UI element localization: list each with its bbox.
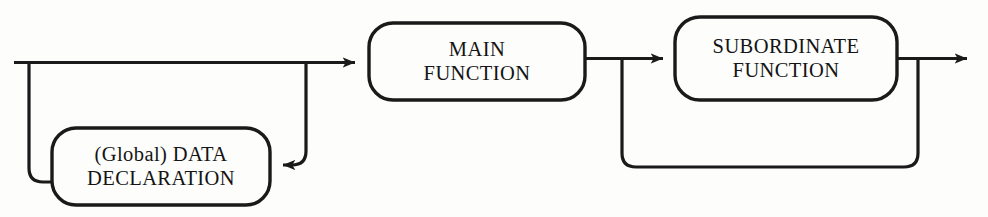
- diagram-canvas: [0, 0, 988, 217]
- node-subordinate-function-box[interactable]: [675, 17, 897, 100]
- data-declaration-loop-back: [283, 63, 306, 166]
- railroad-diagram: MAIN FUNCTION SUBORDINATE FUNCTION (Glob…: [0, 0, 988, 217]
- node-data-declaration-box[interactable]: [52, 128, 270, 205]
- node-main-function-box[interactable]: [369, 23, 585, 100]
